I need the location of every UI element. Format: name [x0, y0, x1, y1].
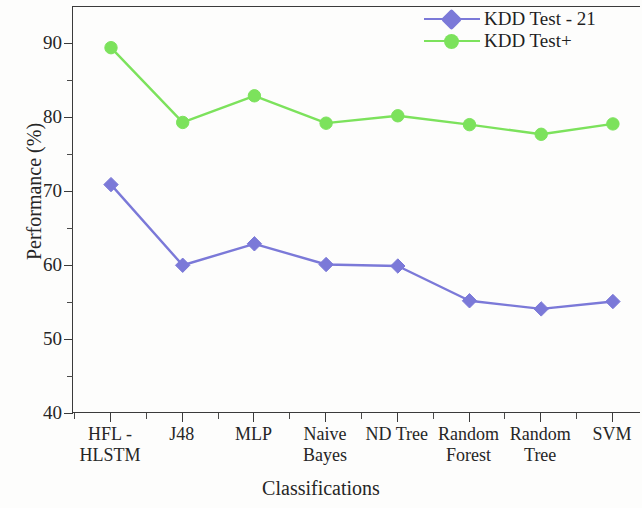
- y-tick-major: [64, 117, 73, 118]
- data-point-marker: [105, 42, 117, 54]
- data-point-marker: [319, 257, 333, 271]
- legend-marker: [424, 9, 480, 29]
- data-point-marker: [392, 110, 404, 122]
- x-tick-major: [325, 413, 326, 422]
- chart-figure: Performance (%) Classifications KDD Test…: [0, 0, 642, 508]
- x-tick-minor: [361, 413, 362, 419]
- x-tick-major: [540, 413, 541, 422]
- series-1: [104, 177, 620, 316]
- x-tick-major: [612, 413, 613, 422]
- data-point-marker: [462, 294, 476, 308]
- y-tick-minor: [67, 228, 73, 229]
- x-tick-minor: [146, 413, 147, 419]
- x-tick-label-line: SVM: [558, 424, 642, 445]
- y-tick-label: 70: [18, 181, 62, 200]
- data-point-marker: [320, 117, 332, 129]
- legend: KDD Test - 21KDD Test+: [424, 8, 638, 52]
- x-tick-major: [397, 413, 398, 422]
- y-tick-minor: [67, 376, 73, 377]
- data-point-marker: [606, 294, 620, 308]
- y-tick-major: [64, 413, 73, 414]
- plot-area: [72, 6, 640, 413]
- data-point-marker: [177, 116, 189, 128]
- legend-marker: [424, 31, 480, 51]
- y-tick-minor: [67, 80, 73, 81]
- x-tick-minor: [74, 413, 75, 419]
- x-tick-major: [469, 413, 470, 422]
- x-tick-label: SVM: [558, 424, 642, 445]
- y-tick-label: 60: [18, 255, 62, 274]
- x-axis-title: Classifications: [0, 477, 642, 500]
- data-point-marker: [607, 118, 619, 130]
- y-tick-label: 90: [18, 33, 62, 52]
- series-2: [105, 42, 619, 141]
- y-tick-minor: [67, 154, 73, 155]
- y-tick-major: [64, 339, 73, 340]
- y-tick-label: 80: [18, 107, 62, 126]
- y-tick-major: [64, 43, 73, 44]
- legend-label: KDD Test - 21: [480, 9, 596, 29]
- data-point-marker: [535, 128, 547, 140]
- diamond-marker-icon: [441, 9, 462, 30]
- x-tick-minor: [504, 413, 505, 419]
- x-tick-major: [182, 413, 183, 422]
- x-tick-label-line: Bayes: [271, 445, 379, 466]
- plot-lines: [73, 7, 641, 414]
- x-tick-major: [253, 413, 254, 422]
- circle-marker-icon: [444, 34, 459, 49]
- x-tick-minor: [289, 413, 290, 419]
- x-tick-label-line: Tree: [486, 445, 594, 466]
- y-tick-major: [64, 265, 73, 266]
- data-point-marker: [391, 259, 405, 273]
- data-point-marker: [534, 302, 548, 316]
- data-point-marker: [463, 118, 475, 130]
- legend-label: KDD Test+: [480, 31, 572, 51]
- x-tick-minor: [576, 413, 577, 419]
- y-tick-major: [64, 191, 73, 192]
- series-line: [111, 185, 613, 309]
- data-point-marker: [248, 90, 260, 102]
- legend-item-1[interactable]: KDD Test - 21: [424, 8, 638, 30]
- y-tick-label: 50: [18, 329, 62, 348]
- y-tick-label: 40: [18, 403, 62, 422]
- x-tick-label-line: HLSTM: [56, 445, 164, 466]
- y-tick-minor: [67, 302, 73, 303]
- legend-item-2[interactable]: KDD Test+: [424, 30, 638, 52]
- x-tick-minor: [433, 413, 434, 419]
- x-tick-minor: [218, 413, 219, 419]
- x-tick-major: [110, 413, 111, 422]
- data-point-marker: [247, 237, 261, 251]
